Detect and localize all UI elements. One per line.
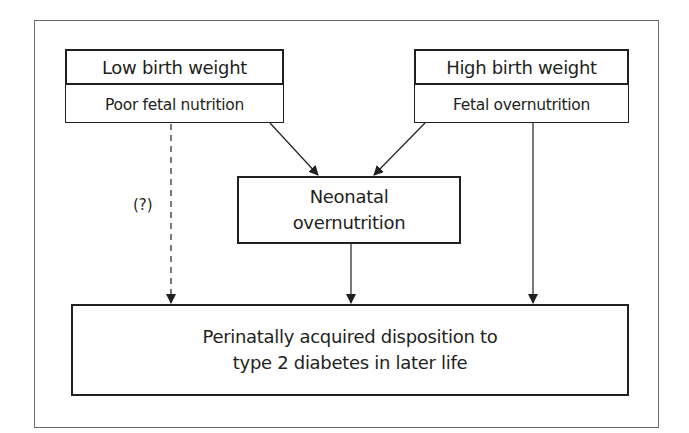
edge-low-to-neonatal bbox=[270, 123, 318, 175]
edge-layer bbox=[0, 0, 689, 433]
edge-high-to-neonatal bbox=[374, 123, 425, 175]
